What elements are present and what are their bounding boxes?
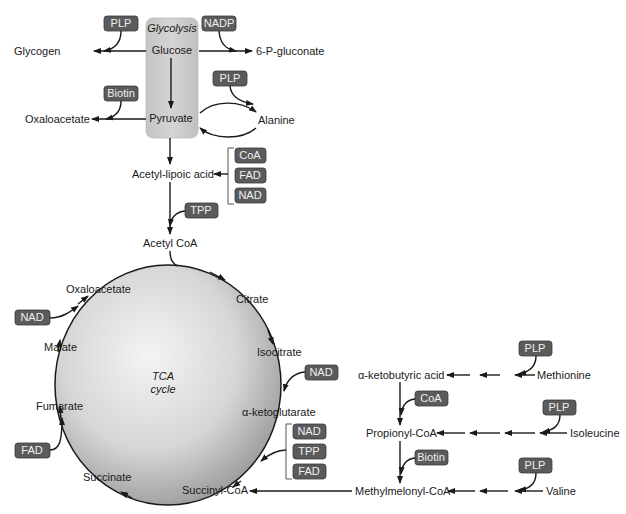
cofactor-fad-akg: FAD [293,464,326,479]
svg-text:CoA: CoA [420,392,442,404]
tca-alpha-ketoglutarate-label: α-ketoglutarate [242,406,316,418]
svg-text:CoA: CoA [239,149,261,161]
pdh-bracket [228,148,234,204]
svg-text:PLP: PLP [549,401,570,413]
plp-methionine-arrow [519,356,536,374]
tca-title-line2: cycle [150,383,175,395]
cofactor-coa-pdh: CoA [235,148,266,163]
cofactor-plp-glycogen: PLP [104,16,138,31]
coa-propionyl-arrow [401,399,415,415]
svg-text:PLP: PLP [525,342,546,354]
svg-text:NAD: NAD [309,366,332,378]
tpp-arrow [170,211,185,226]
plp-alanine-arrow [230,86,253,104]
tca-malate-label: Malate [44,341,77,353]
svg-text:Biotin: Biotin [107,87,135,99]
svg-text:Biotin: Biotin [417,451,445,463]
tca-citrate-label: Citrate [236,293,268,305]
plp-glycogen-arrow [104,31,121,51]
oxaloacetate-top-label: Oxaloacetate [25,113,90,125]
acetyl-coa-entry [170,251,178,266]
acetyl-coa-label: Acetyl CoA [143,237,198,249]
tca-title-line1: TCA [152,370,174,382]
tca-succinyl-coa-label: Succinyl-CoA [182,484,249,496]
acetyl-lipoic-acid-label: Acetyl-lipoic acid [132,168,214,180]
cofactor-coa-propionyl: CoA [415,391,448,406]
cofactor-nad-akg: NAD [293,424,326,439]
akg-cofactor-arrow [261,450,286,461]
svg-text:NAD: NAD [238,189,261,201]
cofactor-plp-methionine: PLP [519,341,552,356]
cofactor-plp-valine: PLP [519,458,552,473]
tca-oxaloacetate-label: Oxaloacetate [66,283,131,295]
isoleucine-label: Isoleucine [570,427,620,439]
6-p-gluconate-label: 6-P-gluconate [256,45,325,57]
glucose-label: Glucose [152,44,192,56]
cofactor-fad-pdh: FAD [235,168,266,183]
cofactor-plp-alanine: PLP [213,71,247,86]
alanine-to-pyruvate-arrow [200,128,256,137]
tca-fumarate-label: Fumarate [36,400,83,412]
cofactor-biotin-oxaloacetate: Biotin [104,86,138,101]
svg-text:FAD: FAD [21,444,42,456]
pyruvate-label: Pyruvate [149,112,192,124]
svg-text:PLP: PLP [111,17,132,29]
biotin-propionyl-arrow [401,458,415,474]
svg-text:NAD: NAD [20,311,43,323]
akg-bracket [286,424,292,479]
svg-text:FAD: FAD [239,169,260,181]
tca-isocitrate-label: Isocitrate [257,346,302,358]
svg-text:PLP: PLP [220,72,241,84]
nad-isocitrate-arrow [284,372,305,391]
plp-isoleucine-arrow [543,415,560,432]
plp-valine-arrow [519,473,536,490]
alpha-ketobutyric-acid-label: α-ketobutyric acid [358,369,444,381]
cofactor-biotin-propionyl: Biotin [415,450,448,465]
cofactor-nadp: NADP [202,16,236,31]
methylmelonyl-coa-label: Methylmelonyl-CoA [355,485,451,497]
svg-text:TPP: TPP [190,204,211,216]
cofactor-nad-isocitrate: NAD [305,365,338,380]
svg-text:FAD: FAD [298,465,319,477]
cofactor-tpp-pdh: TPP [185,203,218,218]
metabolic-pathway-diagram: Glycolysis Glucose Pyruvate Glycogen PLP… [0,0,626,514]
cofactor-nad-malate: NAD [15,310,50,325]
cofactor-fad-fumarate: FAD [15,443,50,458]
propionyl-coa-label: Propionyl-CoA [366,427,438,439]
svg-text:NADP: NADP [204,17,235,29]
biotin-oxaloacetate-arrow [106,101,121,119]
methionine-label: Methionine [537,369,591,381]
alanine-label: Alanine [258,114,295,126]
nadp-arrow [219,31,236,51]
glycogen-label: Glycogen [14,45,60,57]
valine-label: Valine [546,485,576,497]
svg-text:NAD: NAD [297,425,320,437]
svg-text:PLP: PLP [525,459,546,471]
pyruvate-to-alanine-arrow [200,103,256,113]
glycolysis-title: Glycolysis [147,22,197,34]
glycolysis-box: Glycolysis Glucose Pyruvate [146,18,198,138]
cofactor-nad-pdh: NAD [235,188,266,203]
cofactor-tpp-akg: TPP [293,444,326,459]
svg-text:TPP: TPP [298,445,319,457]
nad-malate-arrow [50,306,78,318]
tca-succinate-label: Succinate [83,471,131,483]
cofactor-plp-isoleucine: PLP [543,400,576,415]
